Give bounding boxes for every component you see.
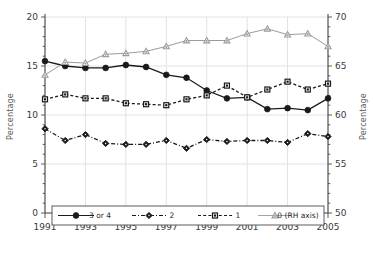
gridlines-group [45,17,328,213]
legend-label: 3 or 4 [89,211,111,220]
legend-label: 1 [236,211,241,220]
legend-label: 2 [170,211,175,220]
svg-text:60: 60 [335,110,347,120]
y-axis-right-ticks: 5055606570 [328,12,347,218]
svg-text:20: 20 [27,12,39,22]
svg-text:0: 0 [32,208,38,218]
svg-text:65: 65 [335,61,346,71]
y-axis-left-title: Percentage [6,87,15,147]
svg-text:5: 5 [32,159,38,169]
svg-text:10: 10 [27,110,39,120]
svg-text:70: 70 [335,12,347,22]
chart-container: Percentage Percentage 05101520 505560657… [0,0,373,265]
svg-text:50: 50 [335,208,347,218]
line-chart-plot: 05101520 5055606570 19911993199519971999… [0,0,373,265]
y-axis-right-title: Percentage [359,87,368,147]
y-axis-left-ticks: 05101520 [27,12,45,218]
svg-text:15: 15 [27,61,38,71]
chart-legend: 3 or 4210 (RH axis) [52,206,324,225]
axis-lines-group [45,14,328,213]
svg-text:55: 55 [335,159,346,169]
legend-label: 0 (RH axis) [277,211,318,220]
